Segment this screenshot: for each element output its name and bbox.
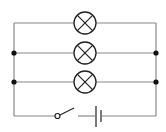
battery-icon bbox=[96, 106, 101, 127]
junction-dot-icon bbox=[153, 50, 158, 55]
junction-dot-icon bbox=[11, 50, 16, 55]
circuit-diagram bbox=[0, 0, 166, 132]
lamp-icon bbox=[74, 12, 96, 34]
supply-branch bbox=[14, 106, 156, 127]
lamp-icon bbox=[74, 42, 96, 64]
branch-1 bbox=[14, 12, 156, 34]
lamp-icon bbox=[74, 71, 96, 93]
switch-icon bbox=[55, 108, 74, 119]
junction-dot-icon bbox=[153, 79, 158, 84]
junction-dot-icon bbox=[11, 79, 16, 84]
branch-3 bbox=[14, 71, 156, 93]
branch-2 bbox=[14, 42, 156, 64]
